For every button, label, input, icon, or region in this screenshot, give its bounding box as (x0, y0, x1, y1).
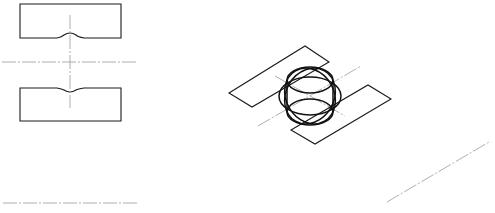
drawing-canvas (0, 0, 495, 213)
isometric-view (229, 46, 391, 144)
orthographic-view (2, 4, 136, 121)
lower-block (20, 88, 121, 121)
axis-centerline-a (258, 66, 361, 126)
upper-block (20, 4, 121, 38)
bottom-right-diagonal-centerline (387, 142, 489, 202)
